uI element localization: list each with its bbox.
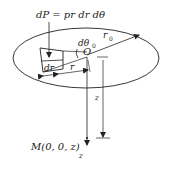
- r0-label: r: [103, 30, 108, 40]
- formula-label: dP = pr dr dθ: [36, 9, 105, 20]
- dr-label: dr: [44, 63, 55, 73]
- disk-ellipse: [13, 28, 159, 88]
- dtheta-sub: 0: [92, 42, 96, 49]
- dr-dimension: [43, 74, 58, 76]
- point-m: [86, 137, 88, 139]
- r0-sub: 0: [109, 35, 113, 42]
- dtheta-arc: [76, 49, 78, 58]
- center-o-label: O: [83, 46, 91, 57]
- pressure-disk-diagram: dP = pr dr dθ dθ 0 O r 0 r dr z M(0, 0, …: [0, 0, 170, 171]
- z-dim-label: z: [94, 94, 99, 102]
- z-axis-label: z: [78, 152, 83, 160]
- point-m-label: M(0, 0, z): [30, 141, 80, 152]
- r-label: r: [70, 62, 75, 72]
